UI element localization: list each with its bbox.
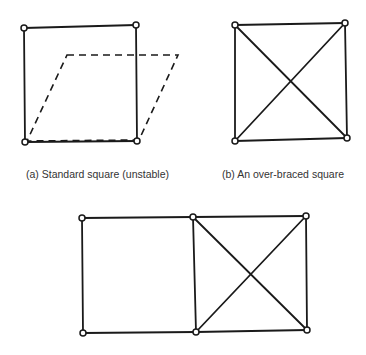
pin-joint-icon <box>21 25 27 31</box>
pin-joint-icon <box>190 214 196 220</box>
pin-joint-icon <box>134 138 140 144</box>
pin-joint-icon <box>344 135 350 141</box>
figure-b-over-braced-square <box>232 20 350 144</box>
pin-joint-icon <box>80 330 86 336</box>
member-top <box>235 23 345 25</box>
pin-joint-icon <box>193 329 199 335</box>
member-middle <box>193 217 196 332</box>
figure-a-standard-square <box>21 22 178 145</box>
member-right <box>345 23 347 138</box>
pin-joint-icon <box>232 138 238 144</box>
member-right <box>306 216 307 330</box>
brace-diagonal-2 <box>196 216 306 332</box>
figure-c-combined-truss <box>79 213 310 336</box>
member-bottom <box>25 141 137 142</box>
member-bottom-right <box>196 330 307 332</box>
member-top <box>24 25 136 28</box>
member-bottom <box>235 138 347 141</box>
pin-joint-icon <box>303 213 309 219</box>
pin-joint-icon <box>232 22 238 28</box>
member-top-right <box>193 216 306 217</box>
pin-joint-icon <box>79 215 85 221</box>
caption-figure-b: (b) An over-braced square <box>222 168 344 180</box>
pin-joint-icon <box>22 139 28 145</box>
pin-joint-icon <box>133 22 139 28</box>
pin-joint-icon <box>342 20 348 26</box>
caption-figure-a: (a) Standard square (unstable) <box>26 168 169 180</box>
member-bottom-left <box>83 332 196 333</box>
member-left <box>24 28 25 142</box>
member-right <box>136 25 137 141</box>
pin-joint-icon <box>304 327 310 333</box>
member-left <box>82 218 83 333</box>
member-top-left <box>82 217 193 218</box>
deformed-parallelogram <box>27 55 178 141</box>
